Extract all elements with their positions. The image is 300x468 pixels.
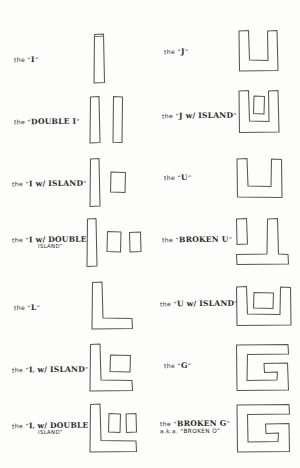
typology-row-j-island: the “J w/ ISLAND” <box>150 82 300 142</box>
typology-row-i: the “I” <box>0 18 150 78</box>
label-quote-close: ” <box>35 56 39 63</box>
label-prefix: the <box>162 112 176 119</box>
label-line-2: ISLAND” <box>38 243 87 251</box>
typology-row-g: the “G” <box>150 334 300 396</box>
label-aka: a.k.a. “BROKEN O” <box>160 428 230 436</box>
typology-row-l-double-island: the “L w/ DOUBLE ISLAND” <box>0 396 150 462</box>
label-prefix: the <box>12 366 26 373</box>
row-label-broken-g: the “BROKEN G” a.k.a. “BROKEN O” <box>160 420 230 436</box>
label-letter: DOUBLE I <box>31 117 76 126</box>
label-prefix: the <box>164 362 178 369</box>
row-label-j: the “J” <box>164 48 189 56</box>
label-prefix: the <box>14 304 28 311</box>
figure-j-plus-island <box>235 88 287 140</box>
row-label-g: the “G” <box>164 362 191 370</box>
label-prefix: the <box>160 420 174 427</box>
label-prefix: the <box>14 56 28 63</box>
figure-u-shape <box>233 156 289 204</box>
label-prefix: the <box>164 48 178 55</box>
figure-two-vertical-bars <box>86 94 132 146</box>
label-quote-close: ” <box>37 304 41 311</box>
label-quote-close: ” <box>188 174 192 181</box>
figure-bar-plus-two-islands <box>83 216 145 270</box>
label-letter: L w/ ISLAND <box>29 365 85 375</box>
label-quote-close: ” <box>229 236 233 243</box>
typology-row-broken-g: the “BROKEN G” a.k.a. “BROKEN O” <box>150 396 300 462</box>
figure-u-plus-island <box>233 284 295 332</box>
figure-l-plus-two-islands <box>86 402 142 456</box>
figure-single-vertical-bar <box>89 32 115 86</box>
label-letter: U w/ ISLAND <box>177 299 234 309</box>
typology-row-i-double-island: the “I w/ DOUBLE ISLAND” <box>0 208 150 270</box>
label-prefix: the <box>12 236 26 243</box>
label-quote-close: ” <box>185 48 189 55</box>
label-letter: BROKEN U <box>179 235 229 245</box>
typology-row-double-i: the “DOUBLE I” <box>0 82 150 142</box>
label-prefix: the <box>162 236 176 243</box>
row-label-u-island: the “U w/ ISLAND” <box>160 300 238 308</box>
row-label-i: the “I” <box>14 56 38 64</box>
figure-l-shape <box>88 280 136 332</box>
typology-row-broken-u: the “BROKEN U” <box>150 208 300 270</box>
figure-l-plus-one-island <box>86 342 138 394</box>
label-prefix: the <box>14 118 28 125</box>
label-letter: I w/ ISLAND <box>29 179 83 189</box>
row-label-l-double-island: the “L w/ DOUBLE ISLAND” <box>12 422 89 437</box>
label-prefix: the <box>12 180 26 187</box>
row-label-i-island: the “I w/ ISLAND” <box>12 180 87 188</box>
figure-g-shape <box>233 342 293 394</box>
label-quote-close: ” <box>188 362 192 369</box>
figure-broken-g-shape <box>233 402 295 456</box>
typology-row-u: the “U” <box>150 146 300 206</box>
typology-row-j: the “J” <box>150 18 300 78</box>
row-label-broken-u: the “BROKEN U” <box>162 236 232 244</box>
typology-sheet: the “I” the “DOUBLE I” the “I w/ ISLAND” <box>0 0 300 468</box>
typology-row-i-island: the “I w/ ISLAND” <box>0 146 150 206</box>
label-prefix: the <box>164 174 178 181</box>
row-label-i-double-island: the “I w/ DOUBLE ISLAND” <box>12 236 87 251</box>
label-quote-close: ” <box>76 118 80 125</box>
figure-bar-plus-one-island <box>86 156 134 210</box>
label-prefix: the <box>160 300 174 307</box>
row-label-u: the “U” <box>164 174 192 182</box>
label-quote-close: ” <box>226 420 230 427</box>
row-label-l-island: the “L w/ ISLAND” <box>12 366 89 374</box>
row-label-double-i: the “DOUBLE I” <box>14 118 80 126</box>
label-prefix: the <box>12 422 26 429</box>
row-label-j-island: the “J w/ ISLAND” <box>162 112 237 120</box>
figure-broken-u-shape <box>233 216 293 268</box>
typology-row-l-island: the “L w/ ISLAND” <box>0 334 150 396</box>
label-letter: J w/ ISLAND <box>179 111 233 121</box>
figure-j-shape <box>235 28 285 78</box>
typology-row-l: the “L” <box>0 272 150 334</box>
row-label-l: the “L” <box>14 304 40 312</box>
typology-row-u-island: the “U w/ ISLAND” <box>150 272 300 334</box>
